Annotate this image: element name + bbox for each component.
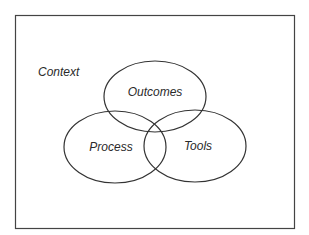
tools-label: Tools [184, 139, 212, 153]
context-frame [16, 16, 295, 229]
outcomes-label: Outcomes [128, 85, 183, 99]
context-label: Context [38, 65, 80, 79]
venn-diagram: Context Outcomes Process Tools [0, 0, 309, 235]
process-label: Process [89, 140, 132, 154]
